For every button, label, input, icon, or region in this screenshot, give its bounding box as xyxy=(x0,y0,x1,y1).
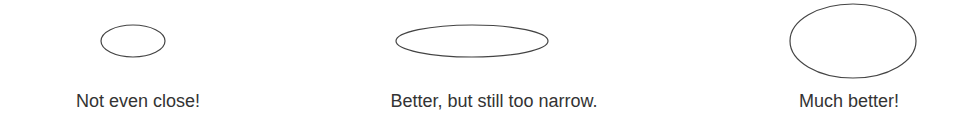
ellipse-comparison-figure: Not even close! Better, but still too na… xyxy=(0,0,964,122)
caption-not-even-close: Not even close! xyxy=(76,89,200,113)
caption-too-narrow: Better, but still too narrow. xyxy=(390,89,597,113)
ellipse-much-better xyxy=(790,4,916,78)
ellipse-too-small xyxy=(101,25,165,57)
ellipse-too-narrow xyxy=(396,25,548,57)
caption-much-better: Much better! xyxy=(799,89,899,113)
